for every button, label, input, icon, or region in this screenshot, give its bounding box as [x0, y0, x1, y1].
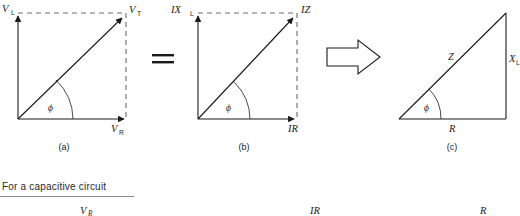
bottom-partial-labels: V R IR R	[80, 205, 487, 216]
diagram-c-angle-label: ϕ	[424, 103, 429, 113]
diagram-a-angle-arc	[56, 80, 73, 119]
section-heading-rule	[0, 196, 134, 197]
bottom-partial-label-1: V	[80, 205, 88, 216]
diagram-b: IX L IZ IR ϕ (b)	[170, 4, 310, 152]
diagram-c-vertical-label-sub: L	[516, 59, 520, 66]
diagram-a-hypotenuse-label-sub: T	[137, 10, 141, 17]
diagram-b-caption: (b)	[239, 142, 250, 152]
diagram-b-horizontal-label: IR	[287, 123, 298, 134]
diagram-b-resultant-vector	[198, 18, 293, 119]
diagram-a-caption: (a)	[59, 142, 70, 152]
diagram-b-vertical-label: IX	[170, 4, 181, 15]
diagram-a-horizontal-label: V	[111, 123, 119, 134]
diagram-c-horizontal-label: R	[448, 123, 456, 134]
bottom-partial-label-3: R	[479, 205, 487, 216]
block-arrow-icon	[327, 40, 380, 74]
diagram-b-angle-label: ϕ	[226, 103, 231, 113]
diagram-b-vertical-label-sub: L	[190, 10, 194, 17]
diagram-a-vertical-label-sub: L	[11, 9, 15, 16]
equals-bar-bottom	[152, 61, 174, 63]
right-block-arrow-shape	[327, 40, 380, 74]
diagram-c-vertical-label: X	[508, 53, 516, 64]
diagram-c-angle-arc	[429, 89, 441, 119]
section-heading: For a capacitive circuit	[2, 181, 106, 192]
diagram-c-hypotenuse	[399, 13, 506, 119]
diagram-c-caption: (c)	[447, 142, 458, 152]
diagram-a-angle-label: ϕ	[48, 103, 53, 113]
diagram-a-vertical-label: V	[2, 3, 10, 14]
diagram-a-hypotenuse-label: V	[129, 4, 137, 15]
bottom-partial-label-1-sub: R	[87, 210, 93, 216]
diagram-a: V L V T V R ϕ (a)	[2, 3, 141, 152]
figure-page: V L V T V R ϕ (a) IX L IZ IR ϕ	[0, 0, 520, 216]
equals-bar-top	[152, 54, 174, 56]
equals-sign	[152, 54, 174, 63]
bottom-partial-label-2: IR	[309, 205, 320, 216]
diagram-c: Z X L R ϕ (c)	[399, 13, 520, 152]
diagram-a-resultant-vector	[18, 18, 122, 119]
diagram-c-hypotenuse-label: Z	[448, 51, 454, 62]
diagram-b-angle-arc	[234, 82, 250, 119]
diagram-a-horizontal-label-sub: R	[119, 129, 124, 136]
diagram-b-hypotenuse-label: IZ	[300, 4, 310, 15]
